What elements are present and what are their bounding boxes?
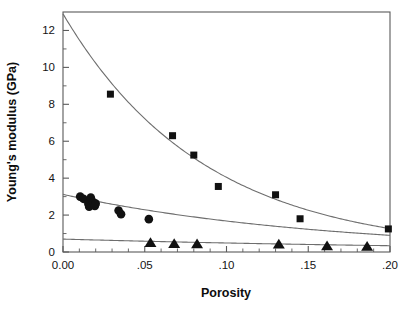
y-tick-label: 2 [49,209,55,221]
x-tick-label: .20 [382,259,398,271]
marker-triangle [144,237,156,247]
marker-square [169,132,176,139]
x-tick-label: 0.00 [52,259,74,271]
x-tick-label: .10 [219,259,235,271]
x-axis-tick-labels: 0.00.05.10.15.20 [52,259,398,271]
marker-circle [91,199,100,208]
marker-square [215,183,222,190]
y-tick-label: 12 [42,24,55,36]
marker-circle [145,215,154,224]
fit-curve-squares [63,14,390,229]
chart-canvas: 0.00.05.10.15.20 024681012 Porosity Youn… [0,0,410,312]
y-tick-label: 10 [42,61,55,73]
fit-curve-triangles [63,239,390,246]
plot-frame [63,12,390,252]
marker-triangle [191,238,203,248]
x-tick-label: .05 [137,259,153,271]
x-tick-label: .15 [300,259,316,271]
y-axis-major-ticks [63,30,69,252]
y-axis-tick-labels: 024681012 [42,24,55,258]
marker-circle [117,210,126,219]
marker-square [272,191,279,198]
marker-square [297,215,304,222]
marker-square [190,152,197,159]
y-tick-label: 6 [49,135,55,147]
y-tick-label: 8 [49,98,55,110]
series-squares [107,91,392,233]
marker-square [107,91,114,98]
figure-container: 0.00.05.10.15.20 024681012 Porosity Youn… [0,0,410,312]
fit-curves [63,14,390,246]
y-tick-label: 4 [49,172,56,184]
y-tick-label: 0 [49,246,55,258]
series-circles [76,192,153,223]
x-axis-title: Porosity [201,286,251,300]
fit-curve-circles [63,194,390,235]
y-axis-title: Young's modulus (GPa) [5,62,19,202]
marker-square [385,225,392,232]
marker-triangle [168,238,180,248]
data-markers [76,91,392,251]
